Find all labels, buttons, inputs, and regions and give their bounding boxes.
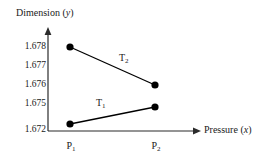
- x-axis-arrowhead-icon: [193, 128, 201, 135]
- series-t2-point-p2: [151, 81, 158, 88]
- series-t2-point-p1: [66, 43, 73, 50]
- series-t2-segment: [70, 47, 155, 85]
- y-axis-arrowhead-icon: [45, 27, 52, 35]
- series-t1-point-p1: [66, 120, 73, 127]
- chart-figure: Dimension (y) Pressure (x) 1.678 1.677 1…: [0, 0, 264, 163]
- series-line-t1: [66, 103, 158, 127]
- series-t1-segment: [70, 107, 155, 124]
- plot-area: [0, 0, 264, 163]
- series-line-t2: [66, 43, 158, 88]
- axis-lines: [45, 27, 201, 134]
- series-t1-point-p2: [151, 103, 158, 110]
